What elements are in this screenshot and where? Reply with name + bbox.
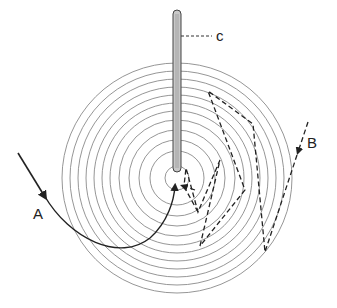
- label-a: A: [33, 205, 43, 222]
- path-a: [18, 153, 175, 248]
- diagram: c A B: [0, 0, 337, 308]
- label-b: B: [307, 134, 317, 151]
- path-b: [183, 91, 308, 252]
- rod-c: [173, 10, 181, 172]
- label-c: c: [216, 27, 224, 44]
